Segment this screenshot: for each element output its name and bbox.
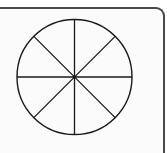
eight-sector-circle — [17, 20, 132, 135]
circle-diagram — [0, 0, 167, 153]
center-point — [73, 75, 77, 79]
